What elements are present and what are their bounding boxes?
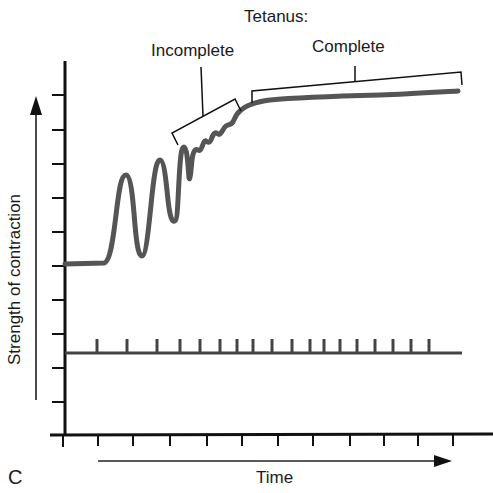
panel-letter: C [8,467,22,487]
complete-label: Complete [312,38,385,55]
stimulus-trace [65,339,462,353]
tetanus-diagram [0,0,493,493]
incomplete-label: Incomplete [151,42,234,59]
x-axis-label: Time [256,469,293,486]
incomplete-bracket [172,67,241,145]
y-direction-arrow-icon [30,96,42,400]
figure-title: Tetanus: [244,8,308,25]
time-direction-arrow-icon [98,455,452,467]
y-axis-ticks [52,95,65,402]
contraction-trace [65,91,458,264]
y-axis-label: Strength of contraction [6,194,23,365]
x-axis [50,434,493,435]
